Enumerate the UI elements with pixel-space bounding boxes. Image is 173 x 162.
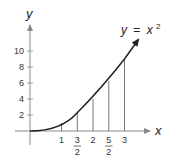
y-axis-label: y	[25, 6, 34, 21]
curve-label: y = x 2	[120, 22, 161, 37]
x-tick-5-2-num: 5	[106, 135, 111, 145]
x-tick-1: 1	[59, 135, 64, 145]
x-tick-3-2-den: 2	[75, 147, 80, 157]
x-tick-3-2-num: 3	[75, 135, 80, 145]
y-tick-6: 6	[19, 78, 24, 88]
x-axis-label: x	[154, 123, 162, 138]
y-tick-4: 4	[19, 94, 24, 104]
y-tick-8: 8	[19, 62, 24, 72]
parabola-diagram: 2 4 6 8 10 1 3 2 2 5 2 3 y x y = x 2	[0, 0, 173, 162]
x-tick-3: 3	[122, 135, 127, 145]
y-tick-2: 2	[19, 110, 24, 120]
x-tick-2: 2	[90, 135, 95, 145]
x-tick-5-2-den: 2	[106, 147, 111, 157]
parabola-curve	[30, 40, 138, 131]
y-tick-10: 10	[14, 46, 24, 56]
